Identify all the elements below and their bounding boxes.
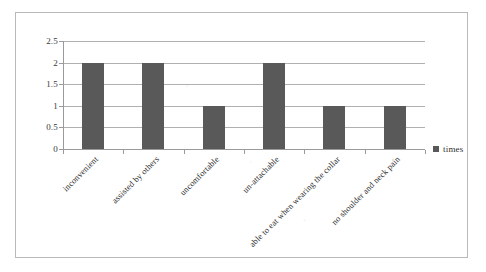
bar[interactable] — [203, 106, 225, 149]
bars-layer — [63, 41, 425, 149]
bar[interactable] — [323, 106, 345, 149]
plot-area: 2.5 2 1.5 1 0.5 0 — [63, 41, 425, 149]
x-axis-label: uncomfortable — [177, 154, 220, 197]
y-axis-line — [63, 41, 64, 150]
x-axis-label: inconvenient — [61, 154, 100, 193]
x-tick-mark — [425, 150, 426, 154]
legend-swatch-times — [433, 146, 439, 152]
bar[interactable] — [263, 63, 285, 149]
bar[interactable] — [142, 63, 164, 149]
bar-slot — [365, 41, 425, 149]
y-tick-label-1: 1 — [53, 101, 58, 111]
bar[interactable] — [82, 63, 104, 149]
bar-slot — [244, 41, 304, 149]
x-axis-label: un-attachable — [240, 154, 281, 195]
bar-slot — [184, 41, 244, 149]
bar-slot — [304, 41, 364, 149]
x-axis-labels: inconvenientassisted by othersuncomforta… — [63, 154, 425, 254]
y-tick-label-0: 0 — [53, 144, 58, 154]
x-axis-label: assisted by others — [109, 154, 160, 205]
y-tick-label-1.5: 1.5 — [46, 79, 58, 89]
y-tick-label-0.5: 0.5 — [46, 122, 58, 132]
bar-slot — [63, 41, 123, 149]
x-axis-label: no shoulder and neck pain — [329, 154, 402, 227]
bar-slot — [123, 41, 183, 149]
chart-frame: 2.5 2 1.5 1 0.5 0 inconvenientassisted b… — [15, 12, 468, 258]
legend-label-times: times — [443, 144, 464, 154]
bar[interactable] — [384, 106, 406, 149]
y-tick-label-2: 2 — [53, 58, 58, 68]
legend: times — [433, 144, 464, 154]
y-tick-label-2.5: 2.5 — [46, 36, 58, 46]
